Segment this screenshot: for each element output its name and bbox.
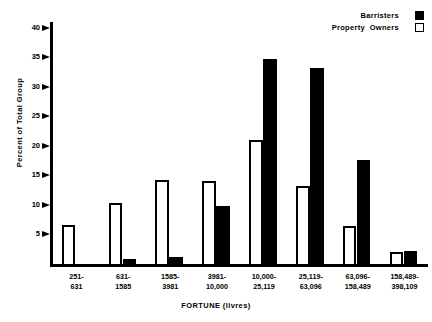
- bar-group: [53, 22, 100, 264]
- legend-item-label: Property Owners: [332, 23, 399, 32]
- y-axis-tick-label: 40: [22, 23, 40, 32]
- bar-chart: Percent of Total Group 510152025303540 2…: [0, 0, 432, 322]
- bar-barristers: [310, 68, 324, 264]
- y-axis-tick: [42, 202, 50, 208]
- x-axis-tick-label: 1585- 3981: [147, 272, 194, 292]
- bar-group: [147, 22, 194, 264]
- legend-item: Property Owners: [332, 21, 424, 33]
- y-axis-tick: [42, 84, 50, 90]
- y-axis-tick: [42, 113, 50, 119]
- bar-property-owners: [296, 186, 310, 264]
- x-axis-tick-label: 63,096- 158,489: [334, 272, 381, 292]
- bar-barristers: [404, 251, 418, 264]
- bar-property-owners: [343, 226, 357, 264]
- x-axis-tick-label: 251- 631: [53, 272, 100, 292]
- x-axis-tick-label: 631- 1585: [100, 272, 147, 292]
- y-axis-tick-label: 35: [22, 52, 40, 61]
- bar-barristers: [123, 259, 137, 264]
- bar-property-owners: [249, 140, 263, 264]
- x-axis-tick-label: 3981- 10,000: [194, 272, 241, 292]
- y-axis-tick-label: 5: [22, 229, 40, 238]
- bar-group: [334, 22, 381, 264]
- y-axis-tick: [42, 172, 50, 178]
- legend: BarristersProperty Owners: [332, 9, 424, 33]
- x-axis-tick-label: 25,119- 63,096: [287, 272, 334, 292]
- bar-group: [194, 22, 241, 264]
- bar-group: [241, 22, 288, 264]
- x-axis-line: [50, 264, 428, 267]
- bar-group: [287, 22, 334, 264]
- x-axis-tick-label: 10,000- 25,119: [241, 272, 288, 292]
- bar-property-owners: [155, 180, 169, 264]
- bar-property-owners: [390, 252, 404, 264]
- y-axis-tick-label: 30: [22, 82, 40, 91]
- y-axis-tick-label: 10: [22, 200, 40, 209]
- outlined-square-icon: [415, 23, 424, 32]
- bar-group: [381, 22, 428, 264]
- plot-area: [53, 22, 428, 264]
- filled-square-icon: [415, 11, 424, 20]
- bar-group: [100, 22, 147, 264]
- bar-property-owners: [202, 181, 216, 264]
- bar-barristers: [263, 59, 277, 264]
- y-axis-tick-label: 25: [22, 111, 40, 120]
- x-axis-tick-label: 158,489- 398,109: [381, 272, 428, 292]
- y-axis-tick: [42, 231, 50, 237]
- bar-barristers: [216, 206, 230, 264]
- y-axis-tick: [42, 54, 50, 60]
- legend-item: Barristers: [332, 9, 424, 21]
- y-axis-tick-label: 20: [22, 141, 40, 150]
- legend-item-label: Barristers: [361, 11, 399, 20]
- y-axis-tick-label: 15: [22, 170, 40, 179]
- y-axis-tick: [42, 25, 50, 31]
- bar-barristers: [169, 257, 183, 264]
- bar-barristers: [357, 160, 371, 264]
- bar-property-owners: [62, 225, 76, 264]
- bar-property-owners: [109, 203, 123, 264]
- y-axis-title: Percent of Total Group: [15, 58, 24, 188]
- y-axis-tick: [42, 143, 50, 149]
- x-axis-title: FORTUNE (livres): [0, 301, 432, 310]
